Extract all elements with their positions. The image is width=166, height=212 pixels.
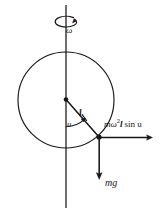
physics-diagram-figure: ω l u mω2l sin u mg [0, 0, 166, 212]
centrifugal-force-label-prefix: mω [104, 119, 117, 129]
weight-label: mg [105, 178, 117, 188]
angular-velocity-label: ω [66, 26, 72, 35]
radius-length-label: l [78, 108, 82, 118]
angle-label: u [67, 120, 71, 129]
centrifugal-force-arrowhead [147, 135, 153, 140]
centrifugal-force-label: mω2l sin u [104, 118, 142, 129]
diagram-canvas [0, 0, 166, 212]
spin-direction-arrowhead [73, 19, 77, 23]
centrifugal-force-label-suffix: sin u [124, 119, 141, 129]
